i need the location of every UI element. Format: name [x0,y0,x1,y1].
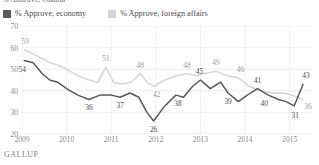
x-axis-tick-label: 2010 [59,135,74,144]
x-axis-tick-label: 2011 [104,135,119,144]
data-label: 42 [153,92,160,99]
data-label: 51 [102,55,109,62]
data-label: 37 [116,103,123,110]
y-axis-tick-label: 40 [10,86,18,95]
data-label: 48 [137,62,144,69]
y-axis-tick-label: 70 [10,22,18,31]
y-axis-tick-label: 60 [10,43,18,52]
plot-area: 54363726384539414031435951484248494636 [22,26,312,134]
y-axis-labels: 203040506070 [0,26,20,134]
y-axis-tick-label: 50 [10,65,18,74]
data-label: 59 [22,38,29,45]
data-label: 45 [196,68,203,75]
y-axis-tick-label: 30 [10,108,18,117]
source-watermark: GALLUP [4,150,39,159]
legend-swatch-foreign-affairs-icon [108,10,116,18]
data-label: 43 [302,73,309,80]
data-label: 39 [224,98,231,105]
x-axis-tick-label: 2012 [148,135,163,144]
legend-item-foreign-affairs: % Approve, foreign affairs [108,9,208,18]
data-label: 46 [237,66,244,73]
data-label: 26 [150,126,157,133]
x-axis-labels: 2009201020112012201320142015 [22,135,312,147]
data-label: 38 [174,100,181,107]
data-label: 36 [304,104,311,111]
data-label: 49 [212,60,219,67]
data-label: 40 [261,100,268,107]
x-axis-tick-label: 2014 [237,135,252,144]
chart-container: % Approve, Obama % Approve, economy % Ap… [0,0,319,165]
x-axis-tick-label: 2013 [193,135,208,144]
legend-label-foreign-affairs: % Approve, foreign affairs [120,9,208,18]
chart-legend: % Approve, economy % Approve, foreign af… [3,9,208,18]
legend-item-economy: % Approve, economy [3,9,86,18]
series-lines [24,50,303,121]
data-label: 36 [85,105,92,112]
gridlines [22,26,312,134]
legend-swatch-economy-icon [3,10,11,18]
chart-svg [22,26,312,134]
chart-title-truncated: % Approve, Obama [2,0,65,2]
legend-label-economy: % Approve, economy [15,9,86,18]
data-label: 48 [183,62,190,69]
x-axis-tick-label: 2009 [14,135,29,144]
x-axis-tick-label: 2015 [282,135,297,144]
data-label: 54 [19,66,26,73]
data-label: 31 [291,112,298,119]
data-label: 41 [254,77,261,84]
